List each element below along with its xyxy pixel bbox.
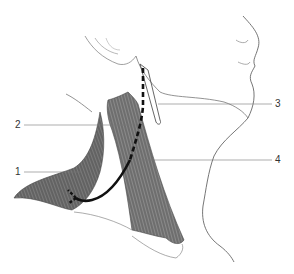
nostril-outline	[236, 40, 248, 43]
label-1: 1	[15, 167, 21, 177]
ear-inner-outline	[95, 38, 118, 54]
jaw-outline	[136, 56, 248, 118]
clavicle-outline	[74, 212, 132, 230]
label-3: 3	[275, 99, 281, 109]
back-neck-outline	[66, 94, 92, 112]
ear-outline	[85, 36, 136, 65]
trapezius-muscle	[14, 112, 104, 210]
label-4: 4	[275, 155, 281, 165]
face-profile-outline	[203, 16, 259, 262]
lips-outline	[238, 62, 250, 64]
neck-anatomy-diagram	[0, 0, 294, 274]
label-2: 2	[15, 120, 21, 130]
sternocleidomastoid-muscle	[107, 92, 184, 244]
